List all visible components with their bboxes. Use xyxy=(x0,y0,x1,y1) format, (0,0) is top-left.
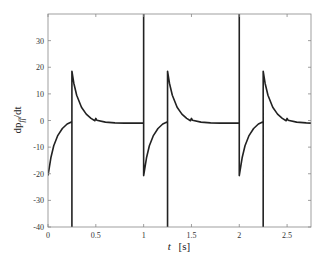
x-tick-label: 0.5 xyxy=(91,231,101,240)
y-tick-label: -30 xyxy=(33,196,44,205)
y-axis-label: dpff/dt xyxy=(11,106,26,133)
x-tick-label: 2 xyxy=(237,231,241,240)
y-tick-label: 30 xyxy=(36,37,44,46)
y-tick-label: 10 xyxy=(36,90,44,99)
x-tick-label: 2.5 xyxy=(282,231,292,240)
x-tick-label: 0 xyxy=(46,231,50,240)
y-tick-label: 20 xyxy=(36,63,44,72)
chart: 00.511.522.5 -40-30-20-100102030 t [s] d… xyxy=(0,0,325,269)
axes-frame xyxy=(48,14,311,227)
y-tick-label: 0 xyxy=(40,117,44,126)
x-tick-label: 1 xyxy=(142,231,146,240)
x-axis-label: t [s] xyxy=(168,240,190,252)
y-tick-label: -10 xyxy=(33,143,44,152)
series-line xyxy=(48,14,311,227)
x-tick-label: 1.5 xyxy=(186,231,196,240)
y-tick-label: -20 xyxy=(33,170,44,179)
y-axis-ticks: -40-30-20-100102030 xyxy=(33,37,311,232)
y-tick-label: -40 xyxy=(33,223,44,232)
plot-series xyxy=(48,14,311,227)
